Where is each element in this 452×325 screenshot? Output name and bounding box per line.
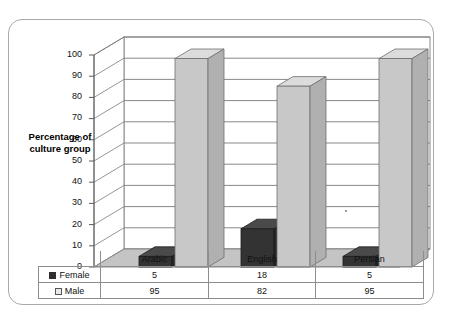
legend-item-male: Male [39,283,101,299]
legend-item-female: Female [39,267,101,283]
y-tick-label-10: 10 [56,240,82,250]
y-tick-label-60: 60 [56,134,82,144]
legend-label-female: Female [59,270,89,280]
table-row-categories: Arabic English Persian [39,251,424,267]
table-corner-blank [39,251,101,267]
table-col-header-english: English [209,251,316,267]
table-row: Male 95 82 95 [39,283,424,299]
table-row: Female 5 18 5 [39,267,424,283]
y-tick-label-20: 20 [56,219,82,229]
cell-male-persian: 95 [316,283,424,299]
bar-male-persian [379,49,428,267]
scan-artifact-speck [345,210,347,212]
y-axis-title-line2: culture group [18,143,102,155]
table-col-header-arabic: Arabic [101,251,209,267]
cell-female-arabic: 5 [101,267,209,283]
chart-data-table: Arabic English Persian Female 5 18 5 Mal… [38,251,423,299]
chart-y-axis [89,55,94,267]
y-tick-label-40: 40 [56,176,82,186]
chart-screenshot: Percentage of culture group 100 90 80 70… [0,0,452,325]
y-tick-label-100: 100 [56,49,82,59]
y-tick-label-90: 90 [56,70,82,80]
cell-male-english: 82 [209,283,316,299]
legend-swatch-female-icon [49,272,56,279]
table-col-header-persian: Persian [316,251,424,267]
legend-label-male: Male [65,286,85,296]
cell-female-english: 18 [209,267,316,283]
y-tick-label-50: 50 [56,155,82,165]
bar-male-arabic [175,49,224,267]
cell-female-persian: 5 [316,267,424,283]
y-tick-label-30: 30 [56,197,82,207]
y-tick-label-70: 70 [56,112,82,122]
cell-male-arabic: 95 [101,283,209,299]
bar-male-english [277,77,326,267]
y-tick-label-80: 80 [56,91,82,101]
legend-swatch-male-icon [55,288,62,295]
